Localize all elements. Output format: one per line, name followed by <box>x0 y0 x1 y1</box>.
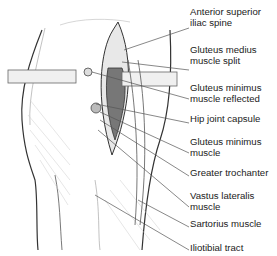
label-line: Gluteus minimus <box>190 137 261 148</box>
label-line: muscle <box>190 148 261 159</box>
label-line: iliac spine <box>190 18 261 29</box>
label-line: Vastus lateralis <box>190 191 254 202</box>
anatomy-label: Gluteus mediusmuscle split <box>190 45 257 66</box>
anatomy-label: Hip joint capsule <box>190 114 260 125</box>
label-line: muscle <box>190 202 254 213</box>
anatomy-label: Greater trochanter <box>190 168 268 179</box>
anatomy-label: Anterior superioriliac spine <box>190 7 261 28</box>
label-line: Gluteus medius <box>190 45 257 56</box>
anatomy-label: Gluteus minimusmuscle reflected <box>190 83 261 104</box>
label-line: Sartorius muscle <box>190 219 261 230</box>
anatomy-label: Sartorius muscle <box>190 219 261 230</box>
label-line: Iliotibial tract <box>190 243 243 254</box>
anatomy-label: Iliotibial tract <box>190 243 243 254</box>
label-line: muscle reflected <box>190 94 261 105</box>
label-line: Anterior superior <box>190 7 261 18</box>
label-line: muscle split <box>190 56 257 67</box>
label-line: Hip joint capsule <box>190 114 260 125</box>
label-line: Greater trochanter <box>190 168 268 179</box>
anatomy-label: Gluteus minimusmuscle <box>190 137 261 158</box>
label-line: Gluteus minimus <box>190 83 261 94</box>
anatomy-label: Vastus lateralismuscle <box>190 191 254 212</box>
